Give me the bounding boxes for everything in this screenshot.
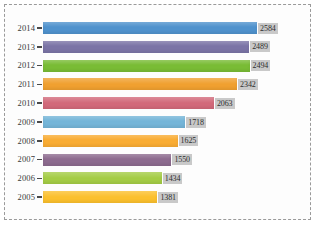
- bar-row: 20122494: [5, 57, 310, 75]
- bar[interactable]: [43, 172, 162, 184]
- bar[interactable]: [43, 116, 185, 128]
- axis-tick-icon: [37, 196, 42, 198]
- axis-tick-icon: [37, 102, 42, 104]
- bar-row: 20091718: [5, 113, 310, 131]
- bar[interactable]: [43, 135, 178, 147]
- bar-value-label: 2489: [250, 41, 270, 52]
- y-axis-tick-label: 2012: [5, 61, 35, 70]
- y-axis-tick-label: 2007: [5, 155, 35, 164]
- axis-tick-icon: [37, 121, 42, 123]
- bar-row: 20081625: [5, 132, 310, 150]
- y-axis-tick-label: 2013: [5, 43, 35, 52]
- y-axis-tick-label: 2008: [5, 137, 35, 146]
- bar-track: 1550: [43, 151, 310, 169]
- bar-track: 2489: [43, 38, 310, 56]
- bar-track: 1381: [43, 188, 310, 206]
- y-axis-tick-label: 2010: [5, 99, 35, 108]
- bar[interactable]: [43, 22, 257, 34]
- bar-track: 2494: [43, 57, 310, 75]
- bar-value-label: 2342: [238, 79, 258, 90]
- bar-row: 20142584: [5, 19, 310, 37]
- bar-track: 1434: [43, 169, 310, 187]
- bar-row: 20132489: [5, 38, 310, 56]
- bar[interactable]: [43, 78, 237, 90]
- bar-value-label: 1550: [172, 154, 192, 165]
- axis-tick-icon: [37, 84, 42, 86]
- bar[interactable]: [43, 97, 214, 109]
- bar[interactable]: [43, 41, 249, 53]
- y-axis-tick-label: 2009: [5, 118, 35, 127]
- bar-track: 2584: [43, 19, 310, 37]
- axis-tick-icon: [37, 27, 42, 29]
- bar-row: 20102063: [5, 94, 310, 112]
- bar[interactable]: [43, 60, 250, 72]
- bar-value-label: 1625: [179, 135, 199, 146]
- bar-value-label: 1381: [158, 192, 178, 203]
- axis-tick-icon: [37, 46, 42, 48]
- bar-row: 20051381: [5, 188, 310, 206]
- y-axis-tick-label: 2014: [5, 24, 35, 33]
- bar[interactable]: [43, 154, 171, 166]
- bar-value-label: 1434: [163, 173, 183, 184]
- bar-value-label: 1718: [186, 117, 206, 128]
- bar-row: 20071550: [5, 151, 310, 169]
- plot-area: 2014258420132489201224942011234220102063…: [5, 5, 310, 219]
- bar-track: 1718: [43, 113, 310, 131]
- axis-tick-icon: [37, 65, 42, 67]
- y-axis-tick-label: 2011: [5, 80, 35, 89]
- bar[interactable]: [43, 191, 157, 203]
- bar-track: 2342: [43, 75, 310, 93]
- bar-track: 2063: [43, 94, 310, 112]
- bar-value-label: 2063: [215, 98, 235, 109]
- bar-value-label: 2494: [251, 60, 271, 71]
- bar-row: 20061434: [5, 169, 310, 187]
- axis-tick-icon: [37, 140, 42, 142]
- axis-tick-icon: [37, 178, 42, 180]
- bar-row: 20112342: [5, 75, 310, 93]
- y-axis-tick-label: 2006: [5, 174, 35, 183]
- axis-tick-icon: [37, 159, 42, 161]
- chart-frame: 2014258420132489201224942011234220102063…: [4, 4, 311, 220]
- bar-track: 1625: [43, 132, 310, 150]
- y-axis-tick-label: 2005: [5, 193, 35, 202]
- bar-value-label: 2584: [258, 23, 278, 34]
